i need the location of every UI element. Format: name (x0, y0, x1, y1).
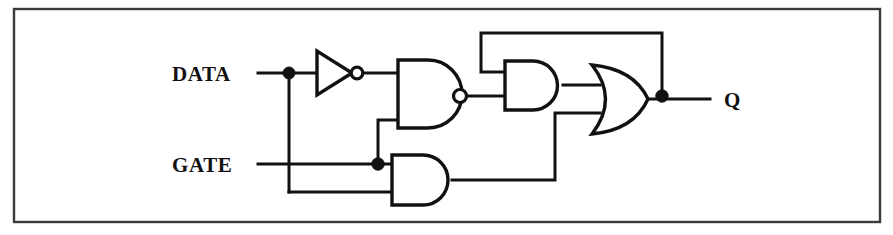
label-gate: GATE (172, 153, 232, 177)
label-data: DATA (172, 62, 231, 86)
junction-data (283, 67, 295, 79)
junction-gate (372, 158, 384, 170)
not-gate-bubble-icon (351, 67, 363, 79)
label-q: Q (724, 88, 741, 112)
logic-circuit-diagram: DATA GATE Q (0, 0, 893, 235)
or-gate-1 (592, 65, 648, 134)
nand-gate-1-bubble-icon (454, 90, 467, 103)
and-gate-2 (505, 61, 557, 110)
and-gate-3 (392, 155, 448, 205)
not-gate-data (317, 51, 352, 95)
junction-q-feedback (656, 90, 668, 102)
circuit-canvas: DATA GATE Q (0, 0, 893, 235)
wire-and3-to-or1 (452, 113, 600, 180)
